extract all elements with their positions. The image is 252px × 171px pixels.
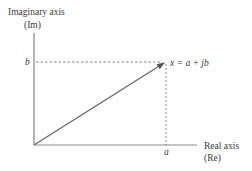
point-label: x = a + jb [169, 58, 209, 68]
imaginary-axis-label: Imaginary axis [8, 7, 65, 17]
real-axis-label: Real axis [204, 141, 239, 151]
complex-vector-arrow [34, 63, 164, 145]
complex-plane-diagram: Imaginary axis (Im) b x = a + jb a Real … [0, 0, 252, 171]
imaginary-axis-abbrev-label: (Im) [24, 20, 41, 31]
imaginary-component-label: b [25, 57, 30, 67]
real-axis-abbrev-label: (Re) [204, 153, 221, 164]
real-component-label: a [164, 147, 169, 157]
